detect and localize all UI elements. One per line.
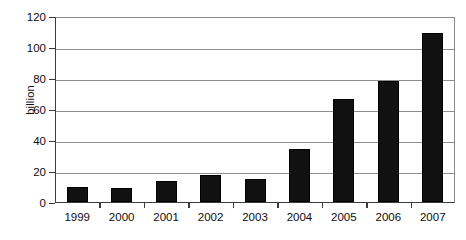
plot-area (55, 17, 455, 203)
x-axis-tick-label: 2000 (99, 211, 145, 224)
y-axis-tick-label: 0 (14, 197, 46, 209)
x-axis-tick-label: 2005 (321, 211, 367, 224)
y-axis-tick-label: 20 (14, 166, 46, 178)
bar-chart: billion 020406080100120 1999200020012002… (0, 0, 466, 240)
bar (111, 188, 132, 202)
x-axis-tick-label: 2007 (410, 211, 456, 224)
gridline (56, 49, 454, 50)
y-axis-tick-label: 100 (14, 42, 46, 54)
x-axis-tick-mark (233, 203, 235, 208)
x-axis-tick-label: 2001 (143, 211, 189, 224)
x-axis-tick-mark (188, 203, 190, 208)
bar (289, 149, 310, 202)
x-axis-tick-label: 1999 (54, 211, 100, 224)
bar (67, 187, 88, 202)
x-axis-tick-mark (99, 203, 101, 208)
x-axis-tick-label: 2006 (365, 211, 411, 224)
y-axis-tick-label: 80 (14, 73, 46, 85)
y-axis-tick-label: 40 (14, 135, 46, 147)
bar (378, 81, 399, 202)
x-axis-tick-mark (277, 203, 279, 208)
x-axis-tick-mark (144, 203, 146, 208)
x-axis-tick-label: 2002 (188, 211, 234, 224)
y-axis-tick-label: 120 (14, 11, 46, 23)
x-axis-tick-mark (366, 203, 368, 208)
bar (200, 175, 221, 202)
bar (422, 33, 443, 202)
x-axis-tick-mark (322, 203, 324, 208)
x-axis-tick-label: 2003 (232, 211, 278, 224)
x-axis-tick-mark (411, 203, 413, 208)
bar (333, 99, 354, 202)
bar (156, 181, 177, 202)
x-axis-tick-label: 2004 (276, 211, 322, 224)
y-axis-tick-label: 60 (14, 104, 46, 116)
bar (245, 179, 266, 202)
